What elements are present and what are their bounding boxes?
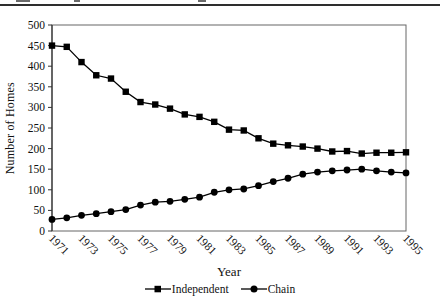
legend-label: Independent <box>172 283 229 295</box>
data-point-marker-circle <box>314 169 321 176</box>
data-point-marker-circle <box>181 196 188 203</box>
data-point-marker-square <box>270 140 276 146</box>
data-point-marker-circle <box>167 198 174 205</box>
x-tick-label: 1973 <box>76 232 101 257</box>
data-point-marker-square <box>344 148 350 154</box>
data-point-marker-square <box>373 150 379 156</box>
y-tick-label: 100 <box>28 184 46 196</box>
data-point-marker-square <box>123 89 129 95</box>
x-tick-label: 1995 <box>401 232 426 257</box>
legend-item-chain: Chain <box>241 283 295 295</box>
data-point-marker-square <box>108 75 114 81</box>
data-point-marker-square <box>359 150 365 156</box>
data-point-marker-circle <box>49 216 56 223</box>
data-point-marker-circle <box>226 186 233 193</box>
data-point-marker-circle <box>78 212 85 219</box>
data-point-marker-square <box>329 148 335 154</box>
data-point-marker-square <box>226 126 232 132</box>
data-point-marker-square <box>196 114 202 120</box>
data-point-marker-circle <box>108 208 115 215</box>
legend: Independent Chain <box>0 281 440 297</box>
data-point-marker-circle <box>403 170 410 177</box>
x-tick-label: 1981 <box>194 232 219 257</box>
y-tick-label: 0 <box>39 225 45 237</box>
x-axis-title: Year <box>52 264 406 280</box>
x-tick-label: 1971 <box>47 232 72 257</box>
series-independent-line <box>52 46 406 154</box>
legend-marker-square-icon <box>145 284 171 294</box>
x-tick-label: 1985 <box>253 232 278 257</box>
y-tick-label: 250 <box>28 122 46 134</box>
x-tick-label: 1983 <box>224 232 249 257</box>
data-point-marker-square <box>314 145 320 151</box>
data-point-marker-square <box>285 142 291 148</box>
data-point-marker-square <box>300 143 306 149</box>
data-point-marker-square <box>78 59 84 65</box>
data-point-marker-circle <box>137 202 144 209</box>
x-tick-label: 1989 <box>312 232 337 257</box>
y-tick-label: 500 <box>28 19 46 31</box>
data-point-marker-square <box>403 149 409 155</box>
data-point-marker-circle <box>211 189 218 196</box>
data-point-marker-square <box>49 42 55 48</box>
y-tick-label: 300 <box>28 101 46 113</box>
data-point-marker-square <box>255 135 261 141</box>
legend-marker-circle-icon <box>241 284 267 294</box>
data-point-marker-circle <box>329 167 336 174</box>
legend-label: Chain <box>268 283 295 295</box>
chart-canvas: 0501001502002503003504004505001971197319… <box>0 0 440 305</box>
y-tick-label: 50 <box>34 204 46 216</box>
legend-item-independent: Independent <box>145 283 229 295</box>
y-tick-label: 150 <box>28 163 46 175</box>
data-point-marker-square <box>167 105 173 111</box>
data-point-marker-circle <box>196 194 203 201</box>
x-tick-label: 1977 <box>135 232 160 257</box>
x-tick-label: 1987 <box>283 232 308 257</box>
data-point-marker-circle <box>152 199 159 206</box>
data-point-marker-circle <box>388 169 395 176</box>
x-tick-label: 1993 <box>371 232 396 257</box>
data-point-marker-circle <box>373 167 380 174</box>
data-point-marker-circle <box>344 167 351 174</box>
x-tick-label: 1991 <box>342 232 367 257</box>
y-axis-title: Number of Homes <box>2 25 18 231</box>
data-point-marker-circle <box>270 178 277 185</box>
data-point-marker-square <box>93 72 99 78</box>
y-tick-label: 200 <box>28 143 46 155</box>
data-point-marker-circle <box>358 166 365 173</box>
data-point-marker-circle <box>93 210 100 217</box>
x-tick-label: 1975 <box>106 232 131 257</box>
data-point-marker-circle <box>63 214 70 221</box>
data-point-marker-circle <box>299 171 306 178</box>
data-point-marker-square <box>241 127 247 133</box>
data-point-marker-square <box>388 150 394 156</box>
data-point-marker-square <box>64 44 70 50</box>
data-point-marker-circle <box>240 186 247 193</box>
data-point-marker-square <box>211 119 217 125</box>
x-tick-label: 1979 <box>165 232 190 257</box>
y-tick-label: 450 <box>28 40 46 52</box>
data-point-marker-circle <box>285 175 292 182</box>
data-point-marker-square <box>182 111 188 117</box>
data-point-marker-square <box>137 99 143 105</box>
y-tick-label: 350 <box>28 81 46 93</box>
figure-container: 0501001502002503003504004505001971197319… <box>0 0 440 305</box>
data-point-marker-circle <box>255 182 262 189</box>
data-point-marker-circle <box>122 206 129 213</box>
data-point-marker-square <box>152 101 158 107</box>
y-tick-label: 400 <box>28 60 46 72</box>
series-chain-line <box>52 169 406 219</box>
